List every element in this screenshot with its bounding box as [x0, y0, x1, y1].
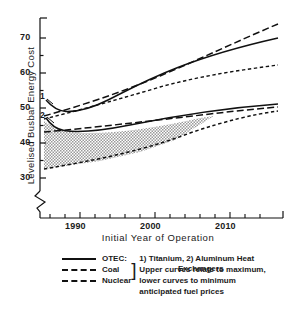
x-tick-label-1990: 1990 [65, 221, 86, 231]
legend-label-otec: OTEC: [102, 254, 131, 265]
x-tick-label-2010: 2010 [215, 221, 236, 231]
y-tick-label-60: 60 [20, 67, 30, 77]
legend-note-line2: lower curves to minimum [139, 276, 265, 287]
legend-row-note3: anticipated fuel prices [62, 287, 266, 297]
curve-label-2: 2 [40, 110, 45, 120]
curve-label-1: 1 [40, 91, 45, 101]
y-tick-label-40: 40 [20, 137, 30, 147]
x-axis [40, 211, 283, 218]
legend-otec-detail2: Exchangers [178, 264, 223, 273]
y-tick-label-50: 50 [20, 102, 30, 112]
legend-swatch-otec [62, 254, 102, 265]
legend-swatch-coal [62, 265, 102, 276]
legend-label-coal: Coal [102, 265, 131, 276]
y-tick-label-30: 30 [20, 172, 30, 182]
legend-swatch-nuclear [62, 276, 102, 287]
legend-row-nuclear: Nuclear lower curves to minimum [62, 276, 266, 287]
legend-brace: ] [131, 265, 139, 287]
x-axis-title: Initial Year of Operation [38, 232, 278, 243]
x-axis-ticks [50, 212, 260, 218]
legend-label-nuclear: Nuclear [102, 276, 131, 287]
chart-figure: Levelised Busbar Energy Cost Initial Yea… [0, 0, 293, 315]
legend-row-coal: Coal ] Upper curves relate to maximum, [62, 265, 266, 276]
legend-note-line3: anticipated fuel prices [139, 287, 265, 297]
chart-legend: OTEC: 1) Titanium, 2) Aluminum Heat Coal… [62, 254, 266, 297]
legend-row-otec: OTEC: 1) Titanium, 2) Aluminum Heat [62, 254, 266, 265]
y-tick-label-70: 70 [20, 32, 30, 42]
x-tick-label-2000: 2000 [140, 221, 161, 231]
